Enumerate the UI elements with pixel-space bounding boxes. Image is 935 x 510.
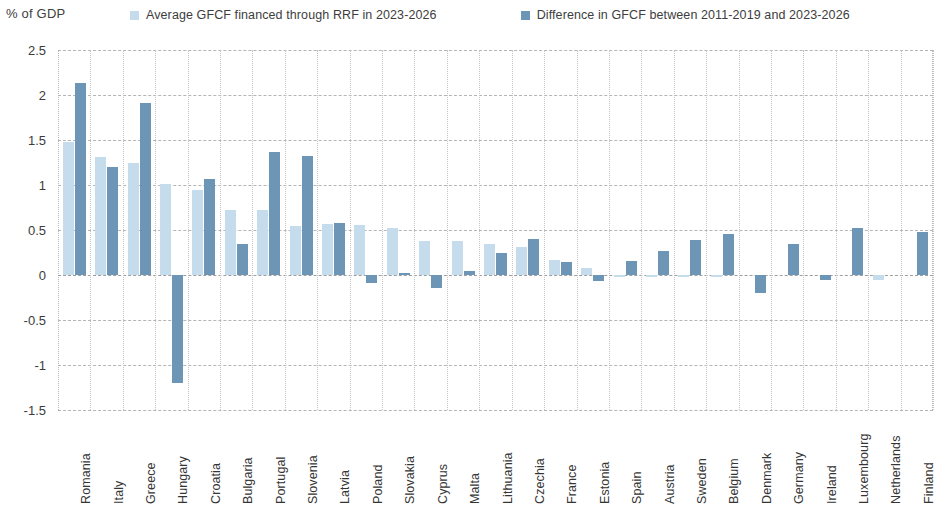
bar (192, 190, 203, 275)
x-axis-tick-label: Denmark (760, 453, 774, 504)
x-axis-tick-label: Italy (112, 481, 126, 504)
gfcf-rrf-bar-chart: % of GDP Average GFCF financed through R… (0, 0, 935, 510)
x-axis-tick-label: Latvia (338, 470, 352, 504)
y-axis-unit-label: % of GDP (6, 6, 65, 21)
bar-group (739, 50, 771, 410)
bar-group (868, 50, 900, 410)
bar (399, 273, 410, 275)
bar (496, 253, 507, 276)
bar (614, 275, 625, 277)
gridline (58, 410, 933, 411)
bar (917, 232, 928, 275)
bar (658, 251, 669, 275)
bar (107, 167, 118, 275)
bar (690, 240, 701, 275)
x-axis-tick-label: Luxembourg (857, 434, 871, 505)
y-axis-tick-label: -1 (34, 358, 46, 373)
x-axis-tick-label: Estonia (598, 462, 612, 504)
y-axis-tick-label: 0 (39, 268, 46, 283)
x-axis-tick-label: Ireland (825, 465, 839, 504)
bar-group (609, 50, 641, 410)
bar-group (414, 50, 446, 410)
bar-group (123, 50, 155, 410)
x-axis-tick-label: Netherlands (889, 435, 903, 504)
y-axis-tick-label: 2 (39, 88, 46, 103)
bar (225, 210, 236, 275)
bar-group (771, 50, 803, 410)
bar-group (706, 50, 738, 410)
x-axis-tick-label: Austria (663, 464, 677, 504)
bar (755, 275, 766, 293)
bar-group (382, 50, 414, 410)
bar (678, 275, 689, 277)
x-axis-tick-label: Slovakia (403, 456, 417, 504)
x-axis-tick-label: Poland (371, 464, 385, 504)
x-axis-tick-label: Finland (922, 462, 935, 504)
bar-group (544, 50, 576, 410)
legend-item-dark: Difference in GFCF between 2011-2019 and… (521, 8, 850, 22)
x-axis-tick-label: Lithuania (501, 452, 515, 504)
bar (160, 184, 171, 275)
y-axis-tick-label: -0.5 (24, 313, 46, 328)
x-axis-tick-label: Croatia (209, 463, 223, 504)
bar-group (901, 50, 933, 410)
x-axis-tick-label: Belgium (727, 458, 741, 504)
bar-group (188, 50, 220, 410)
bar (516, 247, 527, 275)
bar (140, 103, 151, 275)
chart-legend: Average GFCF financed through RRF in 202… (130, 8, 850, 22)
bar-group (252, 50, 284, 410)
legend-item-light: Average GFCF financed through RRF in 202… (130, 8, 437, 22)
x-axis-tick-label: Portugal (274, 457, 288, 504)
bar (334, 223, 345, 275)
bar (204, 179, 215, 275)
bar (322, 224, 333, 275)
bar-group (577, 50, 609, 410)
bar-group (447, 50, 479, 410)
legend-swatch-dark (521, 11, 530, 20)
bar (723, 234, 734, 275)
bar (711, 275, 722, 277)
x-axis-tick-label: Bulgaria (241, 457, 255, 504)
bar-group (350, 50, 382, 410)
bar-group (674, 50, 706, 410)
bar (873, 275, 884, 280)
bar (464, 271, 475, 275)
bar (820, 275, 831, 280)
bar (561, 262, 572, 275)
x-axis-tick-label: Malta (468, 473, 482, 504)
bar (593, 275, 604, 281)
x-axis-tick-label: Greece (144, 462, 158, 504)
category-separator (933, 50, 934, 410)
bar (366, 275, 377, 283)
bar (549, 260, 560, 275)
y-axis-tick-label: -1.5 (24, 403, 46, 418)
bar (302, 156, 313, 275)
y-axis: 2.521.510.50-0.5-1-1.5 (0, 50, 52, 410)
y-axis-tick-label: 2.5 (28, 43, 46, 58)
bar (63, 142, 74, 275)
bar-group (803, 50, 835, 410)
bar (172, 275, 183, 383)
plot-area (58, 50, 933, 410)
x-axis-tick-label: Czechia (533, 458, 547, 504)
x-axis-tick-label: Slovenia (306, 455, 320, 504)
bar (354, 225, 365, 275)
x-axis-tick-label: Romania (79, 453, 93, 504)
y-axis-tick-label: 1.5 (28, 133, 46, 148)
bar (484, 244, 495, 276)
legend-label-dark: Difference in GFCF between 2011-2019 and… (537, 8, 850, 22)
bar (95, 157, 106, 275)
x-axis: RomaniaItalyGreeceHungaryCroatiaBulgaria… (58, 412, 933, 508)
bar-group (220, 50, 252, 410)
x-axis-tick-label: Hungary (176, 456, 190, 504)
bar-group (641, 50, 673, 410)
bar-group (836, 50, 868, 410)
bar (75, 83, 86, 275)
bar (387, 228, 398, 275)
y-axis-tick-label: 1 (39, 178, 46, 193)
bar (290, 226, 301, 276)
bar (419, 241, 430, 275)
bar (257, 210, 268, 275)
bar-group (285, 50, 317, 410)
